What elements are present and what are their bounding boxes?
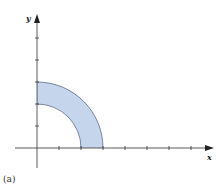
- x-axis-label: x: [206, 152, 212, 162]
- diagram: x y: [0, 0, 221, 189]
- x-axis-arrow-icon: [205, 145, 214, 151]
- quarter-annulus-region: [37, 82, 103, 148]
- y-axis-label: y: [25, 13, 32, 23]
- y-axis-arrow-icon: [34, 14, 40, 23]
- figure-caption: (a): [3, 174, 15, 184]
